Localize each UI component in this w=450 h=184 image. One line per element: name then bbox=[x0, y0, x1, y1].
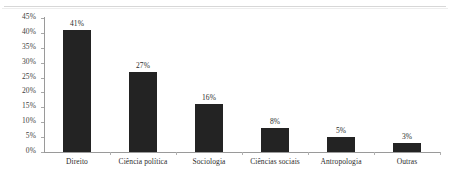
bar-value-label: 41% bbox=[70, 19, 84, 28]
plot-area: 41%27%16%8%5%3% bbox=[44, 18, 440, 152]
y-axis-tick-label: 20% bbox=[22, 86, 36, 95]
x-axis-category-label: Antropologia bbox=[308, 157, 374, 167]
bar[interactable] bbox=[393, 143, 421, 152]
x-axis-tick-mark bbox=[110, 152, 111, 155]
x-axis-tick-mark bbox=[242, 152, 243, 155]
bar-value-label: 3% bbox=[402, 132, 412, 141]
x-axis-tick-mark bbox=[176, 152, 177, 155]
bar[interactable] bbox=[327, 137, 355, 152]
y-axis-tick-label: 10% bbox=[22, 116, 36, 125]
bar-value-label: 8% bbox=[270, 117, 280, 126]
scan-artifact-line bbox=[4, 6, 446, 7]
bar-group: 8% bbox=[242, 18, 308, 152]
y-axis-tick-label: 35% bbox=[22, 42, 36, 51]
y-axis-tick-label: 0% bbox=[26, 146, 36, 155]
scan-artifact-line-secondary bbox=[2, 8, 448, 9]
bar-value-label: 5% bbox=[336, 126, 346, 135]
bar[interactable] bbox=[195, 104, 223, 152]
y-axis-tick-label: 25% bbox=[22, 72, 36, 81]
y-axis-tick-label: 15% bbox=[22, 101, 36, 110]
y-axis-tick-label: 5% bbox=[26, 131, 36, 140]
y-axis-tick-label: 45% bbox=[22, 12, 36, 21]
bar-value-label: 16% bbox=[202, 93, 216, 102]
bar[interactable] bbox=[261, 128, 289, 152]
x-axis-category-label: Outras bbox=[374, 157, 440, 167]
bar-group: 3% bbox=[374, 18, 440, 152]
bar[interactable] bbox=[63, 30, 91, 152]
bar-group: 5% bbox=[308, 18, 374, 152]
x-axis-tick-mark bbox=[440, 152, 441, 155]
x-axis-category-label: Ciência política bbox=[110, 157, 176, 167]
x-axis-category-label: Direito bbox=[44, 157, 110, 167]
x-axis-tick-mark bbox=[308, 152, 309, 155]
bar-group: 16% bbox=[176, 18, 242, 152]
bar-group: 41% bbox=[44, 18, 110, 152]
bar-value-label: 27% bbox=[136, 61, 150, 70]
bar[interactable] bbox=[129, 72, 157, 152]
x-axis-tick-mark bbox=[374, 152, 375, 155]
y-axis-tick-mark bbox=[41, 152, 44, 153]
y-axis-tick-label: 30% bbox=[22, 57, 36, 66]
y-axis-tick-label: 40% bbox=[22, 27, 36, 36]
bar-chart-figure: 0%5%10%15%20%25%30%35%40%45% 41%27%16%8%… bbox=[0, 0, 450, 184]
bar-group: 27% bbox=[110, 18, 176, 152]
x-axis-category-label: Sociologia bbox=[176, 157, 242, 167]
x-axis-category-label: Ciências sociais bbox=[242, 157, 308, 167]
